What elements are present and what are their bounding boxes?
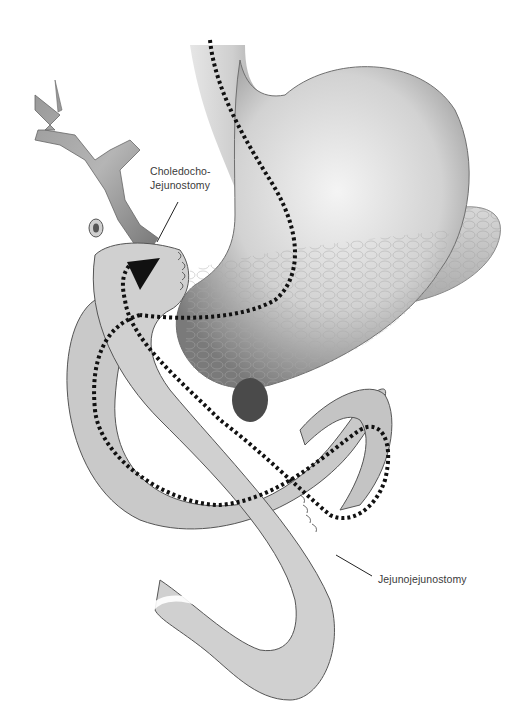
duodenum-shadow (232, 378, 268, 422)
label-line: Jejunojejunostomy (378, 572, 467, 586)
bile-duct (35, 80, 158, 250)
leader-line-jejunojejunostomy (336, 555, 372, 576)
label-jejunojejunostomy: Jejunojejunostomy (378, 572, 467, 586)
anatomy-illustration (0, 0, 526, 722)
label-line: Choledocho- (150, 164, 211, 178)
label-line: Jejunostomy (150, 178, 211, 192)
leader-line-choledochojejunostomy (157, 202, 178, 242)
label-choledochojejunostomy: Choledocho- Jejunostomy (150, 164, 211, 192)
